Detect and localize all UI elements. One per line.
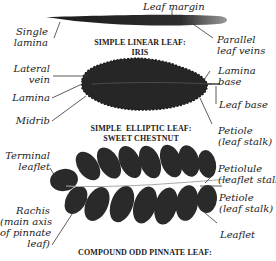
leaf-types-diagram: Leaf margin Single lamina Parallel leaf … <box>0 0 276 261</box>
title-compound-pinnate-leaf: COMPOUND ODD PINNATE LEAF: <box>60 248 230 258</box>
title-simple-elliptic-leaf: SIMPLE ELLIPTIC LEAF: SWEET CHESTNUT <box>76 124 206 144</box>
label-single-lamina: Single lamina <box>0 26 48 48</box>
label-terminal-leaflet: Terminal leaflet <box>0 150 50 172</box>
pinnate-leaf-icon <box>48 142 228 228</box>
label-lateral-vein: Lateral vein <box>0 63 50 85</box>
label-petiolule: Petiolule (leaflet stalk) <box>218 163 276 185</box>
iris-leaf-icon <box>46 15 227 26</box>
label-leaf-margin: Leaf margin <box>143 1 205 12</box>
title-simple-linear-leaf: SIMPLE LINEAR LEAF: IRIS <box>80 38 200 58</box>
label-petiole-simple: Petiole (leaf stalk) <box>218 125 272 147</box>
label-petiole-compound: Petiole (leaf stalk) <box>219 192 273 214</box>
chestnut-leaf-icon <box>82 58 220 110</box>
label-leaflet: Leaflet <box>220 229 255 240</box>
label-midrib: Midrib <box>0 115 50 126</box>
label-parallel-veins: Parallel leaf veins <box>217 34 265 56</box>
label-lamina: Lamina <box>0 92 50 103</box>
label-leaf-base: Leaf base <box>219 99 268 110</box>
label-rachis: Rachis (main axis of pinnate leaf) <box>0 205 50 249</box>
label-lamina-base: Lamina base <box>218 65 256 87</box>
